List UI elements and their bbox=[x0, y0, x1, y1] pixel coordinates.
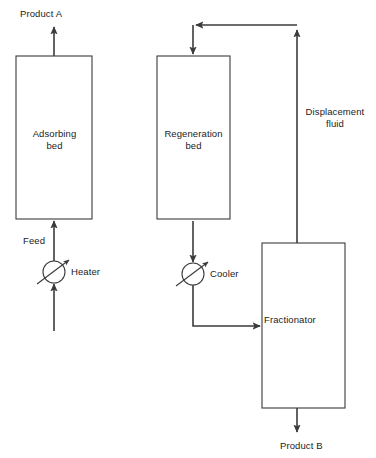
heater-symbol bbox=[37, 260, 69, 284]
flow-diagram-canvas bbox=[0, 0, 376, 458]
product-a-label: Product A bbox=[20, 8, 62, 20]
adsorbing-bed-label: Adsorbing bed bbox=[16, 128, 93, 152]
cooler-symbol bbox=[176, 262, 208, 286]
heater-circle bbox=[43, 261, 65, 283]
fractionator-label: Fractionator bbox=[264, 314, 346, 326]
feed-label: Feed bbox=[23, 235, 45, 247]
cooler-to-fractionator-line bbox=[193, 285, 260, 326]
regeneration-bed-label: Regeneration bed bbox=[155, 128, 232, 152]
process-flow-diagram: Adsorbing bed Regeneration bed Fractiona… bbox=[0, 0, 376, 458]
heater-label: Heater bbox=[71, 266, 100, 278]
cooler-label: Cooler bbox=[210, 268, 239, 280]
cooler-circle bbox=[182, 263, 204, 285]
displacement-fluid-label: Displacement fluid bbox=[303, 106, 367, 130]
product-b-label: Product B bbox=[280, 440, 323, 452]
